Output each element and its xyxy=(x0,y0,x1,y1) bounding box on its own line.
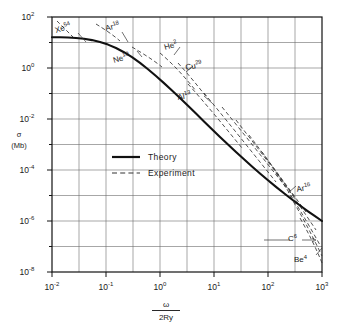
x-axis-denominator: 2Ry xyxy=(159,313,173,322)
photoionization-cross-section-chart: 102 100 10-2 10-4 10-6 10-8 10-2 10-1 10… xyxy=(0,0,339,328)
legend-label-experiment: Experiment xyxy=(148,168,195,178)
x-axis-numerator: ω xyxy=(163,300,169,309)
legend-label-theory: Theory xyxy=(148,152,177,162)
y-axis-symbol: σ xyxy=(17,130,22,139)
y-axis-unit: (Mb) xyxy=(11,141,27,150)
